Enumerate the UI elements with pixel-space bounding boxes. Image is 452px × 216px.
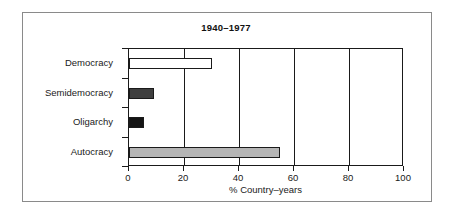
bar-band	[129, 79, 402, 109]
x-axis-tick-100	[403, 166, 404, 171]
chart-figure: 1940–1977 DemocracySemidemocracyOligarch…	[0, 0, 452, 216]
y-axis-tick	[122, 78, 128, 79]
y-axis-label-autocracy: Autocracy	[0, 137, 118, 167]
bar-autocracy	[129, 147, 280, 158]
x-axis-tick-60	[293, 166, 294, 171]
y-axis-label-text: Semidemocracy	[45, 87, 113, 98]
x-axis-tick-80	[348, 166, 349, 171]
x-axis-tick-label-0: 0	[125, 172, 130, 183]
bar-semidemocracy	[129, 88, 154, 99]
bar-oligarchy	[129, 117, 144, 128]
y-axis-label-democracy: Democracy	[0, 48, 118, 78]
y-axis-labels: DemocracySemidemocracyOligarchyAutocracy	[0, 48, 122, 166]
x-axis-tick-label-100: 100	[395, 172, 411, 183]
bar-band	[129, 49, 402, 79]
bar-band	[129, 138, 402, 168]
x-axis-tick-40	[238, 166, 239, 171]
chart-title: 1940–1977	[0, 22, 452, 33]
bar-democracy	[129, 58, 212, 69]
y-axis-tick	[122, 137, 128, 138]
bar-band	[129, 108, 402, 138]
x-axis-tick-20	[183, 166, 184, 171]
y-axis-label-text: Autocracy	[71, 146, 113, 157]
x-axis-title: % Country–years	[128, 184, 403, 195]
x-axis-tick-label-60: 60	[288, 172, 299, 183]
plot-area	[128, 48, 403, 166]
x-axis-tick-0	[128, 166, 129, 171]
y-axis-tick	[122, 48, 128, 49]
y-axis-label-text: Democracy	[65, 57, 113, 68]
x-axis-tick-label-20: 20	[178, 172, 189, 183]
y-axis-tick	[122, 107, 128, 108]
y-axis-label-oligarchy: Oligarchy	[0, 107, 118, 137]
x-axis-tick-label-40: 40	[233, 172, 244, 183]
x-axis-tick-label-80: 80	[343, 172, 354, 183]
y-axis-label-text: Oligarchy	[73, 116, 113, 127]
y-axis-label-semidemocracy: Semidemocracy	[0, 78, 118, 108]
